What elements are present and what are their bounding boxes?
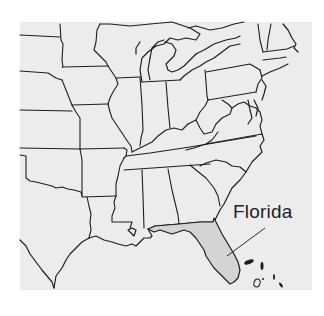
map-figure: Florida xyxy=(0,0,324,316)
land-panel xyxy=(20,22,312,290)
florida-label: Florida xyxy=(233,202,292,221)
eastern-us-map xyxy=(0,0,324,316)
